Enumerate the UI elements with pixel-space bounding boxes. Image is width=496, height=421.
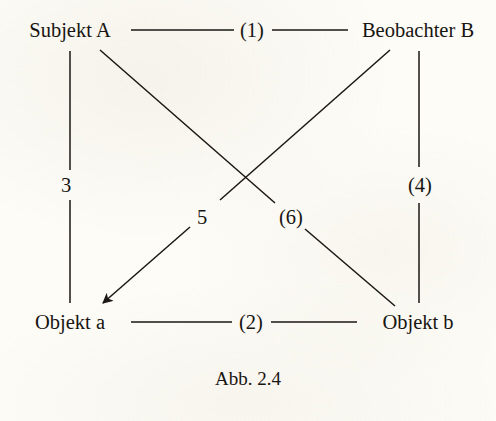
edge-line-5-lower — [103, 227, 190, 303]
edge-label-1: (1) — [240, 20, 264, 41]
edge-line-6-upper — [100, 50, 275, 203]
node-objekt-a: Objekt a — [35, 312, 105, 333]
diagram-edges — [0, 0, 496, 421]
edge-label-3: 3 — [61, 175, 71, 196]
edge-label-6: (6) — [279, 207, 303, 228]
figure-abb-2-4: Subjekt A Beobachter B Objekt a Objekt b… — [0, 0, 496, 421]
node-objekt-b: Objekt b — [382, 312, 453, 333]
node-subjekt-a: Subjekt A — [29, 20, 110, 41]
figure-caption: Abb. 2.4 — [215, 369, 281, 388]
edge-line-6-lower — [305, 229, 395, 306]
edge-label-2: (2) — [239, 312, 263, 333]
edge-line-5-upper — [220, 50, 390, 200]
node-beobachter-b: Beobachter B — [362, 20, 474, 41]
edge-label-5: 5 — [197, 207, 207, 228]
edge-label-4: (4) — [408, 175, 432, 196]
